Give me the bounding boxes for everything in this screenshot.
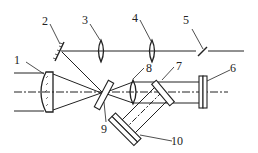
- label-3: 3: [82, 13, 88, 27]
- label-5: 5: [183, 13, 189, 27]
- tube-edge-top: [118, 84, 158, 124]
- leader-1: [26, 62, 44, 74]
- label-7: 7: [176, 59, 182, 73]
- optical-diagram: 1 2 3 4 5 6 7 8 9 10: [0, 0, 258, 153]
- label-4: 4: [132, 11, 138, 25]
- diagram-canvas: 1 2 3 4 5 6 7 8 9 10: [0, 0, 258, 153]
- leader-9: [104, 102, 106, 122]
- ray-diverge-bottom: [104, 93, 133, 103]
- leader-2: [50, 24, 60, 44]
- label-9: 9: [101, 122, 107, 136]
- leader-6: [207, 70, 230, 81]
- leader-3: [90, 24, 100, 40]
- leader-4: [140, 20, 151, 41]
- label-1: 1: [14, 53, 20, 67]
- ray-mirror-to-splitter: [62, 52, 104, 94]
- plate-6: [199, 76, 207, 108]
- leader-10: [140, 135, 172, 141]
- label-8: 8: [146, 61, 152, 75]
- label-10: 10: [171, 134, 183, 148]
- leader-8: [133, 68, 144, 79]
- plate-7: [152, 80, 175, 105]
- leader-5: [192, 29, 203, 49]
- ray-converge-top: [53, 74, 104, 94]
- tube-edge-bottom: [134, 100, 168, 134]
- leader-7: [162, 67, 174, 80]
- label-2: 2: [42, 14, 48, 28]
- label-6: 6: [230, 61, 236, 75]
